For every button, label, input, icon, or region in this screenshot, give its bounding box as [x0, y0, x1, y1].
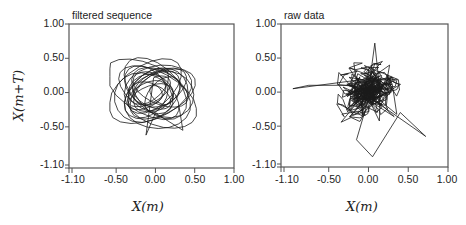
filtered-trajectory	[110, 58, 196, 135]
plot-canvas	[0, 0, 466, 225]
raw-data-trajectory	[293, 43, 426, 157]
